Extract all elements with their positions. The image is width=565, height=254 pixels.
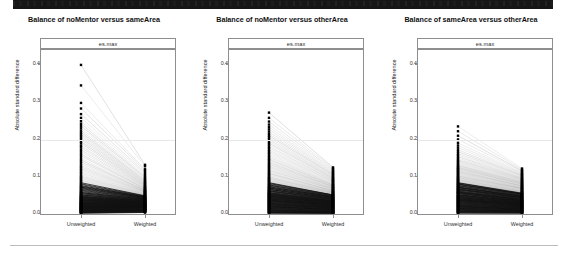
figure-container: Balance of noMentor versus sameArea es.m… xyxy=(0,9,565,245)
y-tick-group-1: 0.00.10.20.30.4 xyxy=(18,9,40,237)
header-dark-band xyxy=(13,0,553,9)
plot-area-2 xyxy=(228,49,364,215)
paired-lines-svg-3 xyxy=(418,50,552,214)
x-tick-mark xyxy=(333,215,334,218)
x-tick-mark xyxy=(145,215,146,218)
reference-line-1 xyxy=(41,140,175,141)
x-tick-mark xyxy=(522,215,523,218)
chart-panel-1: Balance of noMentor versus sameArea es.m… xyxy=(0,9,188,237)
x-tick-label: Weighted xyxy=(303,221,363,227)
y-tick-group-2: 0.00.10.20.30.4 xyxy=(206,9,228,237)
strip-label-3: es.max xyxy=(476,41,495,47)
x-tick-mark xyxy=(269,215,270,218)
strip-header-2: es.max xyxy=(228,38,364,49)
strip-header-3: es.max xyxy=(417,38,553,49)
x-tick-label: Weighted xyxy=(492,221,552,227)
plot-area-3 xyxy=(417,49,553,215)
strip-header-1: es.max xyxy=(40,38,176,49)
chart-panel-3: Balance of sameArea versus otherArea es.… xyxy=(377,9,565,237)
paired-lines-svg-1 xyxy=(41,50,175,214)
chart-panel-2: Balance of noMentor versus otherArea es.… xyxy=(188,9,376,237)
x-tick-mark xyxy=(458,215,459,218)
paired-lines-svg-2 xyxy=(229,50,363,214)
x-tick-label: Unweighted xyxy=(51,221,111,227)
bottom-separator-rule xyxy=(10,245,558,246)
strip-label-1: es.max xyxy=(99,41,118,47)
strip-label-2: es.max xyxy=(287,41,306,47)
y-tick-group-3: 0.00.10.20.30.4 xyxy=(395,9,417,237)
plot-area-1 xyxy=(40,49,176,215)
header-band-texture xyxy=(13,1,553,6)
reference-line-2 xyxy=(229,140,363,141)
x-tick-mark xyxy=(81,215,82,218)
x-tick-label: Weighted xyxy=(115,221,175,227)
x-tick-label: Unweighted xyxy=(239,221,299,227)
reference-line-3 xyxy=(418,140,552,141)
x-tick-label: Unweighted xyxy=(428,221,488,227)
